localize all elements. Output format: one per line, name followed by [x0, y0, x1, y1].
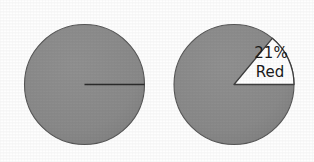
pie-chart-figure: 21% Red — [0, 0, 314, 162]
figure-canvas: 21% Red — [0, 0, 314, 162]
right-pie-slice-category-label: Red — [256, 63, 285, 81]
right-pie-chart: 21% Red — [174, 25, 294, 145]
left-pie-chart — [25, 25, 145, 145]
right-pie-slice-percent-label: 21% — [254, 44, 287, 62]
